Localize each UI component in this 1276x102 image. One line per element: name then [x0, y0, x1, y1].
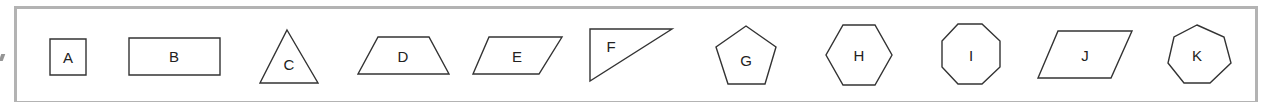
- shape-b: B: [129, 38, 220, 75]
- shape-label: J: [1081, 47, 1089, 64]
- shape-h: H: [826, 25, 892, 85]
- shape-label: I: [969, 47, 973, 64]
- shape-label: E: [512, 48, 522, 65]
- shape-label: D: [398, 48, 409, 65]
- shapes-canvas: A B C D E F G H I J K: [0, 0, 1276, 102]
- shape-k: K: [1168, 25, 1231, 83]
- shape-label: F: [606, 38, 615, 55]
- right-triangle-shape: [590, 29, 672, 81]
- shape-label: H: [854, 47, 865, 64]
- shape-label: C: [284, 56, 295, 73]
- shape-c: C: [260, 30, 318, 83]
- shape-e: E: [473, 37, 562, 74]
- shape-label: A: [63, 49, 73, 66]
- shape-label: B: [169, 48, 179, 65]
- shape-g: G: [716, 26, 776, 84]
- shape-f: F: [590, 29, 672, 81]
- shape-j: J: [1038, 31, 1132, 78]
- shape-i: I: [942, 24, 1000, 84]
- shape-a: A: [50, 39, 86, 75]
- shape-label: G: [740, 52, 752, 69]
- shape-d: D: [358, 37, 449, 74]
- shape-label: K: [1192, 47, 1202, 64]
